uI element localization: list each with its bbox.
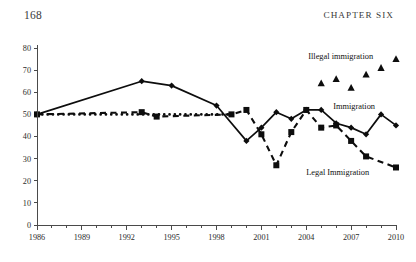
series-label: Illegal immigration	[308, 52, 374, 61]
y-tick-label: 80	[23, 44, 31, 53]
x-tick-label: 2007	[343, 233, 359, 242]
data-point-marker	[273, 162, 279, 168]
x-axis-ticks: 198619891992199519982001200420072010	[29, 225, 404, 242]
page-number: 168	[24, 9, 42, 21]
data-point-marker	[318, 125, 324, 131]
data-point-marker	[392, 55, 399, 62]
x-tick-label: 1998	[208, 233, 224, 242]
x-tick-label: 1995	[163, 233, 179, 242]
data-point-marker	[318, 80, 325, 87]
data-point-marker	[258, 131, 264, 137]
data-point-marker	[333, 75, 340, 82]
chart-canvas: 01020304050607080 1986198919921995199820…	[0, 30, 416, 262]
chapter-heading: CHAPTER SIX	[323, 10, 394, 20]
line-chart: 01020304050607080 1986198919921995199820…	[0, 30, 416, 262]
series-immigration	[34, 78, 399, 144]
series-label: Legal Immigration	[306, 168, 370, 177]
page-header: 168 CHAPTER SIX	[0, 0, 416, 34]
data-point-marker	[348, 84, 355, 91]
x-tick-label: 1992	[119, 233, 135, 242]
y-tick-label: 20	[23, 177, 31, 186]
data-point-marker	[333, 122, 339, 128]
data-point-marker	[243, 107, 249, 113]
x-tick-label: 2001	[253, 233, 269, 242]
y-tick-label: 30	[23, 155, 31, 164]
series-layer	[34, 55, 400, 170]
series-line	[37, 110, 396, 168]
book-page: 168 CHAPTER SIX 01020304050607080 198619…	[0, 0, 416, 262]
y-tick-label: 0	[27, 221, 31, 230]
x-tick-label: 2010	[388, 233, 404, 242]
data-point-marker	[303, 107, 309, 113]
x-tick-label: 1989	[74, 233, 90, 242]
data-point-marker	[377, 64, 384, 71]
data-point-marker	[139, 78, 145, 84]
y-tick-label: 50	[23, 110, 31, 119]
data-point-marker	[288, 129, 294, 135]
y-tick-label: 60	[23, 88, 31, 97]
y-tick-label: 10	[23, 199, 31, 208]
x-tick-label: 1986	[29, 233, 45, 242]
data-point-marker	[363, 153, 369, 159]
y-tick-label: 70	[23, 66, 31, 75]
data-point-marker	[348, 125, 354, 131]
data-point-marker	[393, 164, 399, 170]
data-point-marker	[228, 111, 234, 117]
y-axis-ticks: 01020304050607080	[23, 44, 37, 230]
data-point-marker	[362, 71, 369, 78]
data-point-marker	[169, 83, 175, 89]
x-tick-label: 2004	[298, 233, 314, 242]
data-point-marker	[348, 138, 354, 144]
y-tick-label: 40	[23, 132, 31, 141]
series-legal-immigration	[34, 107, 399, 171]
series-label: Immigration	[333, 102, 376, 111]
